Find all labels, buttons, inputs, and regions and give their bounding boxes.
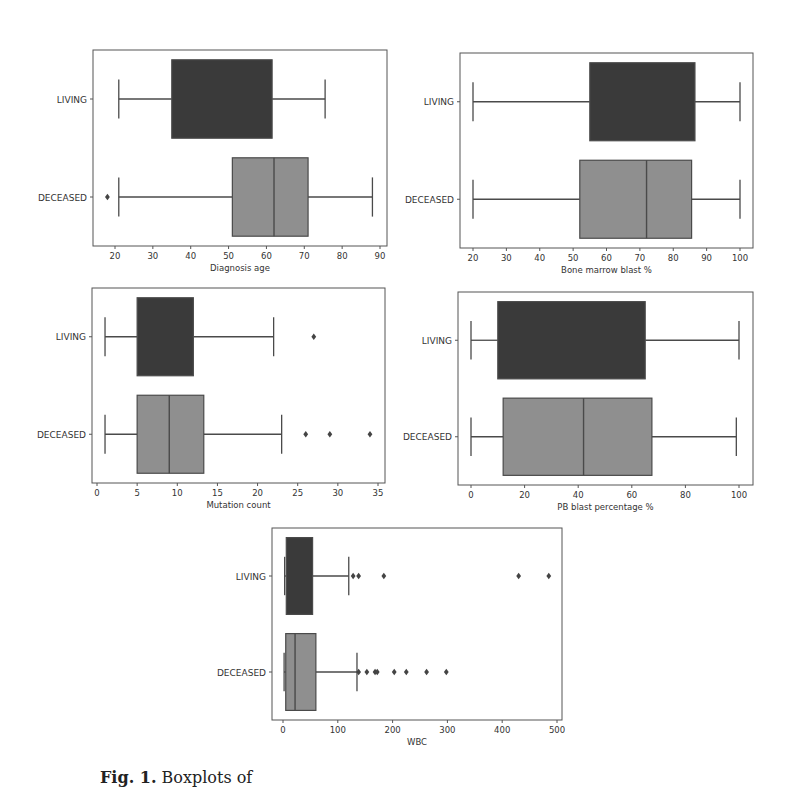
x-axis-label: PB blast percentage %: [557, 502, 653, 512]
x-tick-label: 40: [534, 253, 545, 263]
x-tick-label: 20: [519, 490, 530, 500]
box-deceased: [105, 158, 372, 236]
box-deceased: [105, 395, 372, 473]
x-tick-label: 20: [252, 488, 263, 498]
caption-text: Boxplots of: [162, 768, 253, 787]
outlier-marker: [327, 431, 332, 437]
x-tick-label: 400: [494, 725, 510, 735]
outlier-marker: [311, 334, 316, 340]
x-tick-label: 60: [626, 490, 637, 500]
x-tick-label: 60: [261, 251, 272, 261]
outlier-marker: [392, 669, 397, 675]
category-label: LIVING: [56, 332, 86, 342]
subplot-mutation-count: LIVINGDECEASED05101520253035Mutation cou…: [37, 288, 385, 510]
x-tick-label: 60: [601, 253, 612, 263]
x-tick-label: 80: [337, 251, 348, 261]
outlier-marker: [404, 669, 409, 675]
x-tick-label: 500: [549, 725, 565, 735]
boxplot-figure: LIVINGDECEASED2030405060708090Diagnosis …: [0, 0, 790, 790]
category-label: LIVING: [424, 97, 454, 107]
box-living: [473, 63, 740, 141]
category-label: LIVING: [236, 572, 266, 582]
subplot-wbc: LIVINGDECEASED0100200300400500WBC: [217, 528, 565, 747]
box-deceased: [473, 160, 740, 238]
outlier-marker: [381, 573, 386, 579]
caption-prefix: Fig. 1.: [100, 768, 156, 787]
x-tick-label: 30: [332, 488, 343, 498]
subplot-diagnosis-age: LIVINGDECEASED2030405060708090Diagnosis …: [38, 50, 387, 273]
x-tick-label: 100: [732, 253, 748, 263]
box-living: [285, 538, 552, 615]
x-tick-label: 70: [634, 253, 645, 263]
x-axis-label: WBC: [407, 737, 427, 747]
x-tick-label: 35: [373, 488, 384, 498]
x-tick-label: 0: [280, 725, 285, 735]
outlier-marker: [516, 573, 521, 579]
x-tick-label: 20: [110, 251, 121, 261]
x-tick-label: 50: [223, 251, 234, 261]
x-tick-label: 0: [94, 488, 99, 498]
x-tick-label: 30: [501, 253, 512, 263]
x-tick-label: 50: [568, 253, 579, 263]
x-axis-label: Mutation count: [206, 500, 271, 510]
x-tick-label: 25: [292, 488, 303, 498]
plot-frame: [92, 288, 385, 483]
outlier-marker: [424, 669, 429, 675]
category-label: DECEASED: [405, 195, 454, 205]
x-tick-label: 100: [330, 725, 346, 735]
outlier-marker: [444, 669, 449, 675]
box-living: [471, 302, 739, 379]
x-axis-label: Bone marrow blast %: [561, 265, 652, 275]
figure-caption: Fig. 1. Boxplots of: [100, 768, 252, 787]
category-label: DECEASED: [38, 193, 87, 203]
x-tick-label: 200: [384, 725, 400, 735]
x-tick-label: 0: [468, 490, 473, 500]
x-tick-label: 70: [299, 251, 310, 261]
x-tick-label: 20: [468, 253, 479, 263]
x-axis-label: Diagnosis age: [210, 263, 270, 273]
x-tick-label: 40: [185, 251, 196, 261]
x-tick-label: 100: [731, 490, 747, 500]
x-tick-label: 40: [573, 490, 584, 500]
subplot-pb-blast-percentage: LIVINGDECEASED020406080100PB blast perce…: [403, 292, 753, 512]
outlier-marker: [368, 431, 373, 437]
outlier-marker: [303, 431, 308, 437]
x-tick-label: 5: [134, 488, 139, 498]
box-deceased: [471, 398, 736, 475]
x-tick-label: 80: [668, 253, 679, 263]
x-tick-label: 80: [680, 490, 691, 500]
category-label: LIVING: [422, 336, 452, 346]
category-label: DECEASED: [37, 430, 86, 440]
x-tick-label: 90: [375, 251, 386, 261]
outlier-marker: [105, 194, 110, 200]
category-label: LIVING: [57, 95, 87, 105]
category-label: DECEASED: [217, 668, 266, 678]
outlier-marker: [364, 669, 369, 675]
category-label: DECEASED: [403, 432, 452, 442]
x-tick-label: 30: [147, 251, 158, 261]
x-tick-label: 300: [439, 725, 455, 735]
box-deceased: [284, 634, 449, 711]
outlier-marker: [356, 573, 361, 579]
box-living: [119, 60, 325, 138]
outlier-marker: [546, 573, 551, 579]
x-tick-label: 90: [701, 253, 712, 263]
subplot-bone-marrow-blast: LIVINGDECEASED2030405060708090100Bone ma…: [405, 53, 753, 275]
box-living: [105, 298, 316, 376]
outlier-marker: [351, 573, 356, 579]
x-tick-label: 15: [212, 488, 223, 498]
x-tick-label: 10: [172, 488, 183, 498]
